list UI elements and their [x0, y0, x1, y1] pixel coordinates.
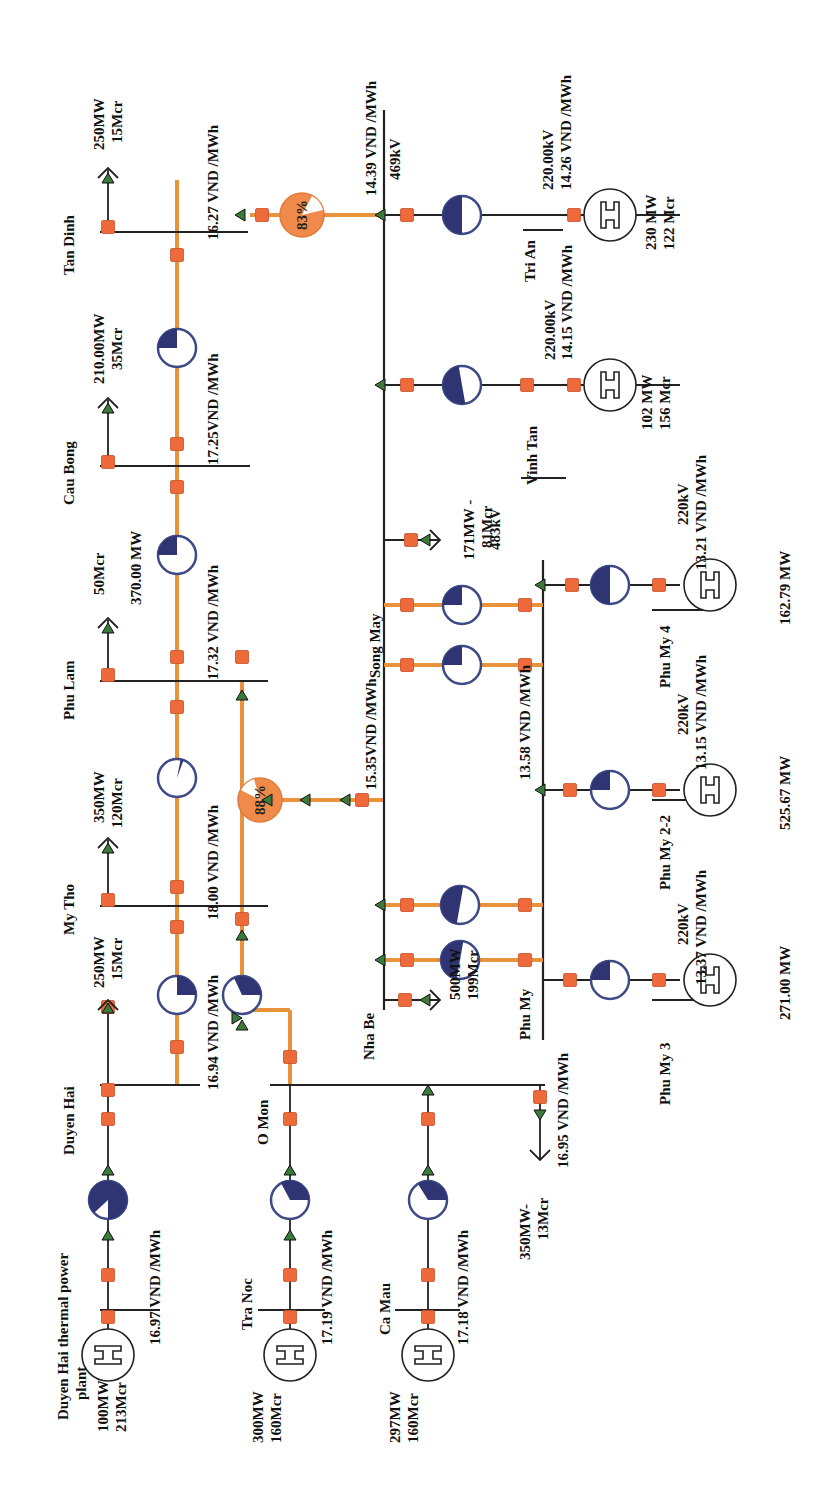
label-483kv: 483kV: [487, 508, 503, 550]
label-ca-mau-price: 17.18 VND /MWh: [455, 1229, 471, 1345]
label-phu-my-price: 13.58 VND /MWh: [517, 664, 533, 780]
label-phu-my-2-2-price: 13.15 VND /MWh: [693, 654, 709, 770]
label-tra-noc: Tra Noc: [239, 1278, 255, 1330]
label-phu-my-4-voltage: 220kV: [675, 483, 691, 525]
label-duyen-hai-load: 250MW: [91, 936, 107, 988]
label-tri-an: Tri An: [522, 240, 538, 282]
label-tan-dinh-load: 250MW: [91, 98, 107, 150]
generator-duyen-hai: [82, 1329, 134, 1381]
transformer-88-pct: 88%: [238, 778, 282, 822]
label-o-mon-load-q: 13Mcr: [535, 1197, 551, 1240]
label-phu-my-4-price: 13.21 VND /MWh: [693, 454, 709, 570]
label-nha-be-load: 500MW: [447, 948, 463, 1000]
label-phu-my-4: Phu My 4: [657, 625, 673, 688]
label-duyen-hai-bus: Duyen Hai: [61, 1086, 77, 1155]
label-tan-dinh-bus: Tan Dinh: [61, 214, 77, 275]
generator-ca-mau: [402, 1329, 454, 1381]
label-cau-bong-bus: Cau Bong: [61, 441, 77, 505]
label-my-tho-load: 350MW: [91, 771, 107, 823]
label-phu-lam-bus: Phu Lam: [61, 660, 77, 720]
generator-phu-my-2-2: [684, 764, 736, 816]
label-phu-my-2-2-voltage: 220kV: [675, 693, 691, 735]
generator-phu-my-4: [684, 559, 736, 611]
label-vinh-tan-price: 14.15 VND /MWh: [559, 244, 575, 360]
generator-tri-an: [584, 189, 636, 241]
label-tra-noc-price: 17.19 VND /MWh: [319, 1229, 335, 1345]
label-my-tho-bus: My Tho: [61, 884, 77, 935]
label-song-may-bus: Song May: [367, 613, 383, 678]
label-duyen-hai-price: 16.97 VND /MWh: [147, 1229, 163, 1345]
label-nha-be-load-q: 199Mcr: [465, 950, 481, 1000]
label-vinh-tan: Vinh Tan: [524, 425, 540, 485]
generator-tra-noc: [264, 1329, 316, 1381]
transformer-duyen-hai: [89, 1181, 127, 1219]
labels: Duyen Hai thermal power plant 100MW 213M…: [55, 74, 793, 1443]
label-phu-lam-price: 17.32 VND /MWh: [205, 564, 221, 680]
label-tra-noc-q: 160Mcr: [268, 1393, 284, 1443]
label-vinh-tan-voltage: 220.00kV: [542, 299, 558, 360]
label-song-may-voltage: 469kV: [387, 138, 403, 180]
transformer-tra-noc: [271, 1181, 309, 1219]
generator-phu-my-3: [684, 954, 736, 1006]
label-nha-be-price: 15.35VND /MWh: [363, 678, 379, 790]
label-my-tho-price: 18.00 VND /MWh: [205, 804, 221, 920]
label-phu-my-3-price: 13.37 VND /MWh: [693, 869, 709, 985]
label-duyen-hai-price-bus: 16.94 VND /MWh: [205, 974, 221, 1090]
label-song-may-load: 171MW -: [461, 500, 477, 560]
label-duyen-hai-load-q: 15Mcr: [109, 937, 125, 980]
label-phu-my-2-2: Phu My 2-2: [657, 815, 673, 890]
transformer-83-pct: 83%: [280, 193, 324, 237]
label-tra-noc-p: 300MW: [250, 1391, 266, 1443]
label-ca-mau-p: 297MW: [387, 1391, 403, 1443]
label-phu-my-bus: Phu My: [517, 988, 533, 1040]
label-ca-mau: Ca Mau: [377, 1283, 393, 1335]
label-duyen-hai-tpp-1: Duyen Hai thermal power: [55, 1253, 71, 1420]
label-tan-dinh-price: 16.27 VND /MWh: [205, 124, 221, 240]
label-my-tho-load-q: 120Mcr: [109, 778, 125, 828]
label-phu-my-3-p: 271.00 MW: [777, 946, 793, 1020]
pct-83-label: 83%: [294, 200, 310, 230]
one-line-diagram: 83% 88%: [0, 0, 821, 1505]
label-vinh-tan-p: 102 MW: [639, 375, 655, 430]
label-song-may-price: 14.39 VND /MWh: [363, 80, 379, 196]
label-vinh-tan-q: 156 Mcr: [657, 376, 673, 430]
label-phu-my-2-2-p: 525.67 MW: [777, 756, 793, 830]
transformer-ca-mau: [409, 1181, 447, 1219]
label-cau-bong-load-q: 35Mcr: [109, 327, 125, 370]
generator-vinh-tan: [584, 359, 636, 411]
label-phu-my-3: Phu My 3: [657, 1042, 673, 1105]
label-tan-dinh-load-q: 15Mcr: [109, 100, 125, 143]
label-ca-mau-q: 160Mcr: [405, 1393, 421, 1443]
label-tri-an-price: 14.26 VND /MWh: [558, 74, 574, 190]
label-tri-an-voltage: 220.00kV: [540, 129, 556, 190]
label-duyen-hai-q: 213Mcr: [113, 1382, 129, 1432]
label-tri-an-q: 122 Mcr: [661, 196, 677, 250]
label-phu-lam-load-q: 50Mcr: [91, 552, 107, 595]
label-cau-bong-price: 17.25VND /MWh: [205, 353, 221, 465]
label-duyen-hai-p: 100MW: [95, 1380, 111, 1432]
label-nha-be-bus: Nha Be: [361, 1013, 377, 1060]
label-cau-bong-load: 210.00MW: [91, 314, 107, 384]
label-phu-my-3-voltage: 220kV: [675, 903, 691, 945]
label-o-mon-bus: O Mon: [255, 1099, 271, 1145]
label-duyen-hai-tpp-2: plant: [73, 1367, 89, 1400]
buses: [100, 110, 712, 1310]
label-tri-an-p: 230 MW: [643, 195, 659, 250]
label-o-mon-load: 350MW-: [517, 1204, 533, 1260]
label-phu-my-4-p: 162.79 MW: [777, 551, 793, 625]
label-phu-lam-load: 370.00 MW: [128, 531, 144, 605]
label-o-mon-price: 16.95 VND /MWh: [555, 1052, 571, 1168]
